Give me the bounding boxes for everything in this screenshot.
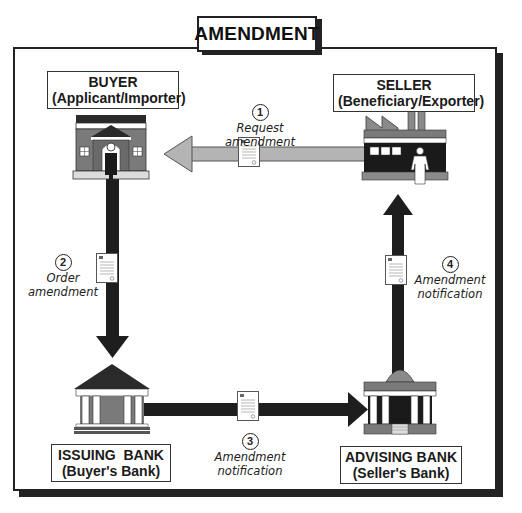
seller-role: (Beneficiary/Exporter) [338, 93, 470, 109]
arrow-step-4 [383, 194, 413, 384]
buyer-name: BUYER [52, 74, 174, 90]
advising-bank-label: ADVISING BANK (Seller's Bank) [340, 446, 462, 484]
document-icon-step-2 [96, 253, 118, 283]
buyer-house-icon [73, 113, 153, 183]
step-4-text-line1: Amendment [410, 273, 490, 287]
seller-factory-icon [360, 106, 450, 184]
step-2-text-line2: amendment [28, 285, 98, 299]
document-icon-step-4 [385, 255, 407, 285]
seller-name: SELLER [338, 77, 470, 93]
issuing-bank-role: (Buyer's Bank) [56, 463, 166, 479]
buyer-role: (Applicant/Importer) [52, 90, 174, 106]
buyer-label: BUYER (Applicant/Importer) [47, 71, 179, 109]
diagram-title: AMENDMENT [197, 16, 317, 52]
seller-label: SELLER (Beneficiary/Exporter) [333, 74, 475, 112]
step-1-number: 1 [252, 104, 269, 121]
advising-bank-name: ADVISING BANK [345, 449, 457, 465]
step-4-text-line2: notification [410, 287, 490, 301]
step-1-text: Request amendment [200, 121, 320, 149]
document-icon-step-3 [237, 391, 259, 421]
step-1-label: 1 Request amendment [200, 104, 320, 149]
step-2-number: 2 [55, 254, 72, 271]
issuing-bank-label: ISSUING BANK (Buyer's Bank) [51, 444, 171, 482]
step-3-text-line2: notification [210, 464, 290, 478]
step-2-label: 2 Order amendment [28, 254, 98, 299]
advising-bank-icon [362, 362, 438, 448]
step-3-text-line1: Amendment [210, 450, 290, 464]
issuing-bank-name: ISSUING BANK [56, 447, 166, 463]
step-4-label: 4 Amendment notification [410, 256, 490, 301]
step-4-number: 4 [442, 256, 459, 273]
step-3-label: 3 Amendment notification [210, 433, 290, 478]
advising-bank-role: (Seller's Bank) [345, 465, 457, 481]
issuing-bank-icon [72, 363, 152, 439]
step-3-number: 3 [242, 433, 259, 450]
step-2-text-line1: Order [28, 271, 98, 285]
